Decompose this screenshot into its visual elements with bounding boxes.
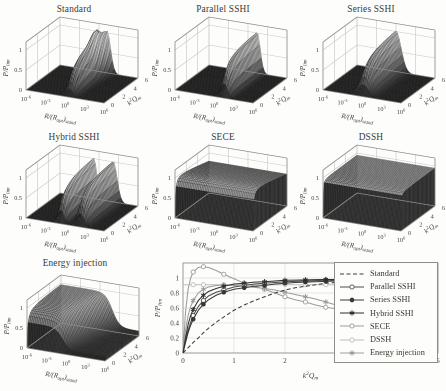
legend-item-series-sshi: Series SSHI [339, 293, 433, 306]
surface-plot-sece [149, 144, 297, 256]
legend-item-energy-injection: Energy injection [339, 346, 433, 359]
legend-item-dssh: DSSH [339, 333, 433, 346]
legend-item-sece: SECE [339, 320, 433, 333]
surface-plot-energy-injection [1, 270, 151, 386]
legend-item-hybrid-sshi: Hybrid SSHI [339, 307, 433, 320]
subplot-title-parallel-sshi: Parallel SSHI [149, 4, 297, 16]
legend-sample-sece [339, 321, 365, 331]
subplot-title-energy-injection: Energy injection [1, 258, 149, 270]
surface-plot-parallel-sshi [149, 16, 297, 128]
subplot-series-sshi: Series SSHI [297, 0, 445, 128]
subplot-dssh: DSSH [297, 128, 445, 256]
subplot-title-series-sshi: Series SSHI [297, 4, 445, 16]
legend-label-series-sshi: Series SSHI [370, 295, 410, 304]
subplot-hybrid-sshi: Hybrid SSHI [0, 128, 148, 256]
legend-label-energy-injection: Energy injection [370, 348, 425, 357]
legend-sample-energy-injection [339, 348, 365, 358]
subplot-energy-injection: Energy injection [1, 256, 149, 386]
subplot-standard: Standard [0, 0, 148, 128]
legend-sample-hybrid-sshi [339, 308, 365, 318]
surface-plot-standard [0, 16, 148, 128]
chart-legend: StandardParallel SSHISeries SSHIHybrid S… [334, 262, 438, 363]
surface-plot-dssh [297, 144, 445, 256]
subplot-title-sece: SECE [149, 132, 297, 144]
subplot-title-dssh: DSSH [297, 132, 445, 144]
legend-label-dssh: DSSH [370, 335, 391, 344]
subplot-parallel-sshi: Parallel SSHI [149, 0, 297, 128]
figure: Standard Parallel SSHI Series SSHI Hybri… [0, 0, 446, 391]
subplot-sece: SECE [149, 128, 297, 256]
surface-plot-hybrid-sshi [0, 144, 148, 256]
legend-sample-standard [339, 269, 365, 279]
legend-item-standard: Standard [339, 267, 433, 280]
legend-label-hybrid-sshi: Hybrid SSHI [370, 309, 414, 318]
legend-sample-series-sshi [339, 295, 365, 305]
subplot-title-hybrid-sshi: Hybrid SSHI [0, 132, 148, 144]
legend-sample-parallel-sshi [339, 282, 365, 292]
legend-label-parallel-sshi: Parallel SSHI [370, 282, 415, 291]
surface-plot-series-sshi [297, 16, 445, 128]
legend-sample-dssh [339, 335, 365, 345]
subplot-title-standard: Standard [0, 4, 148, 16]
legend-label-sece: SECE [370, 322, 390, 331]
line-chart-panel: StandardParallel SSHISeries SSHIHybrid S… [150, 256, 446, 391]
legend-label-standard: Standard [370, 269, 400, 278]
legend-item-parallel-sshi: Parallel SSHI [339, 280, 433, 293]
